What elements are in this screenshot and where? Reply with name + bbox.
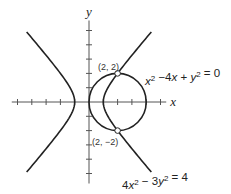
intersection-diagram: x y (2, 2) (2, −2) x2 −4x + y2 = 0 4x2 −… (0, 0, 231, 194)
point-label-upper: (2, 2) (98, 62, 119, 72)
point-label-lower: (2, −2) (92, 137, 118, 147)
x-axis-label: x (169, 94, 176, 109)
intersection-point-lower (115, 128, 121, 134)
y-axis-label: y (84, 4, 92, 19)
hyperbola-equation: 4x2 − 3y2 = 4 (122, 171, 188, 191)
circle-equation: x2 −4x + y2 = 0 (144, 67, 220, 87)
